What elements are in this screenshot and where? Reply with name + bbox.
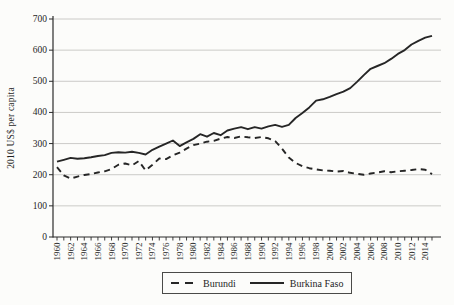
x-tick-label: 1964 — [79, 242, 89, 261]
y-axis-title: 2010 US$ per capita — [6, 63, 20, 193]
legend-item-burundi: Burundi — [171, 278, 236, 289]
y-tick-label: 500 — [33, 76, 48, 86]
x-tick-label: 1986 — [229, 242, 239, 261]
x-tick-label: 1996 — [297, 242, 307, 261]
burkina-faso-solid-line-sample — [250, 282, 284, 284]
legend-label-burkina-faso: Burkina Faso — [290, 278, 344, 289]
y-tick-label: 600 — [33, 45, 48, 55]
burundi-dashed-line-sample — [171, 282, 197, 284]
x-tick-label: 2006 — [366, 242, 376, 261]
x-tick-label: 2004 — [352, 242, 362, 261]
x-tick-label: 1978 — [175, 242, 185, 261]
x-tick-label: 1976 — [161, 242, 171, 261]
x-tick-label: 1984 — [216, 242, 226, 261]
x-tick-label: 2008 — [379, 242, 389, 261]
x-tick-label: 1972 — [134, 243, 144, 261]
x-tick-label: 1980 — [188, 242, 198, 261]
x-tick-label: 2010 — [393, 242, 403, 261]
legend-item-burkina-faso: Burkina Faso — [250, 278, 344, 289]
x-tick-label: 1990 — [257, 242, 267, 261]
x-tick-label: 2012 — [407, 243, 417, 261]
x-tick-label: 1994 — [284, 242, 294, 261]
x-tick-label: 1962 — [66, 243, 76, 261]
x-tick-label: 1960 — [52, 242, 62, 261]
x-tick-label: 1982 — [202, 243, 212, 261]
x-tick-label: 1966 — [93, 242, 103, 261]
x-tick-label: 1998 — [311, 242, 321, 261]
x-tick-label: 1992 — [270, 243, 280, 261]
x-tick-label: 2014 — [420, 242, 430, 261]
y-tick-label: 0 — [42, 232, 47, 242]
series-line-burundi — [57, 136, 432, 178]
series-line-burkina-faso — [57, 36, 432, 162]
y-tick-label: 700 — [33, 14, 48, 24]
legend-label-burundi: Burundi — [203, 278, 236, 289]
figure-page: 0100200300400500600700196019621964196619… — [0, 0, 454, 305]
y-tick-label: 200 — [33, 170, 48, 180]
x-tick-label: 1968 — [107, 242, 117, 261]
x-tick-label: 2002 — [338, 243, 348, 261]
x-tick-label: 1988 — [243, 242, 253, 261]
chart-legend: Burundi Burkina Faso — [162, 272, 352, 294]
y-tick-label: 100 — [33, 201, 48, 211]
y-tick-label: 300 — [33, 139, 48, 149]
y-tick-label: 400 — [33, 107, 48, 117]
x-tick-label: 2000 — [325, 242, 335, 261]
x-tick-label: 1970 — [120, 242, 130, 261]
line-chart: 0100200300400500600700196019621964196619… — [0, 0, 454, 305]
x-tick-label: 1974 — [147, 242, 157, 261]
